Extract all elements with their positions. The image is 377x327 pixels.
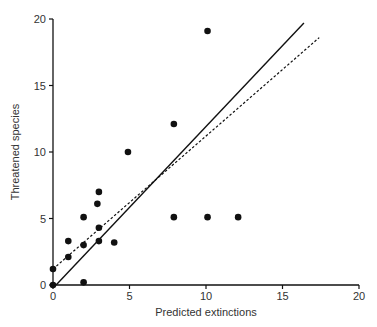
x-tick-label: 20 xyxy=(353,290,365,302)
data-point xyxy=(171,214,178,221)
y-tick-label: 5 xyxy=(40,213,46,225)
x-tick-label: 10 xyxy=(200,290,212,302)
x-axis-title: Predicted extinctions xyxy=(155,306,257,318)
x-tick-label: 5 xyxy=(126,290,132,302)
x-tick-label: 15 xyxy=(276,290,288,302)
y-tick-label: 10 xyxy=(34,146,46,158)
scatter-chart: 0510152005101520 Predicted extinctions T… xyxy=(0,0,377,327)
data-point xyxy=(171,121,178,128)
y-axis-title: Threatened species xyxy=(9,103,21,200)
y-tick-label: 15 xyxy=(34,80,46,92)
y-tick-label: 20 xyxy=(34,13,46,25)
data-point xyxy=(96,225,103,232)
x-tick-label: 0 xyxy=(50,290,56,302)
solid-fit-line xyxy=(56,23,304,285)
data-point xyxy=(80,242,87,249)
data-point xyxy=(96,238,103,245)
data-point xyxy=(94,201,101,208)
y-tick-label: 0 xyxy=(40,279,46,291)
data-point xyxy=(204,28,211,35)
data-point xyxy=(125,149,132,156)
data-points xyxy=(50,28,242,289)
data-point xyxy=(111,239,118,246)
dashed-fit-line xyxy=(53,38,319,269)
axes: 0510152005101520 xyxy=(34,13,365,302)
data-point xyxy=(65,238,72,245)
data-point xyxy=(204,214,211,221)
data-point xyxy=(96,189,103,196)
fit-lines xyxy=(53,23,319,285)
data-point xyxy=(235,214,242,221)
data-point xyxy=(80,214,87,221)
data-point xyxy=(65,254,72,261)
